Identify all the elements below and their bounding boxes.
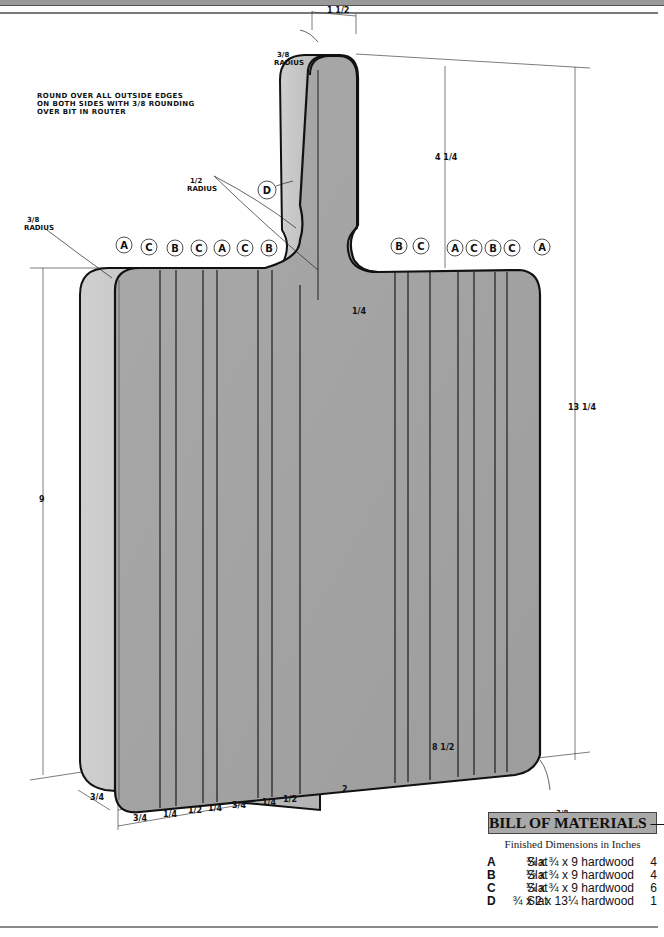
svg-text:C: C [241, 243, 248, 254]
bom-dimensions: ½ x ¾ x 9 hardwood [526, 868, 634, 882]
cutting-board-drawing: ACB CACB BCA CBCA D 3/8RADIUS 1/2RADIUS … [0, 0, 664, 937]
bom-qty: 6 [650, 881, 657, 895]
bom-row: B Slat ½ x ¾ x 9 hardwood 4 [0, 868, 664, 882]
bom-qty: 4 [650, 855, 657, 869]
bom-qty: 1 [650, 894, 657, 908]
svg-text:B: B [395, 241, 403, 252]
bom-part: D [487, 894, 496, 908]
svg-text:A: A [538, 242, 546, 253]
svg-text:C: C [470, 243, 477, 254]
bom-subtitle: Finished Dimensions in Inches [488, 838, 657, 850]
svg-text:1/4: 1/4 [352, 307, 366, 316]
svg-text:4 1/4: 4 1/4 [435, 153, 458, 162]
bom-row: C Slat ¼ x ¾ x 9 hardwood 6 [0, 881, 664, 895]
bom-part: C [487, 881, 496, 895]
svg-text:C: C [508, 243, 515, 254]
bottom-rule [0, 926, 658, 928]
svg-text:1 1/2: 1 1/2 [327, 6, 349, 15]
svg-text:3/4: 3/4 [232, 801, 246, 810]
svg-text:RADIUS: RADIUS [187, 185, 217, 193]
bom-row: D Slat ¾ x 2 x 13¼ hardwood 1 [0, 894, 664, 908]
svg-text:1/4: 1/4 [163, 810, 177, 819]
bom-part: A [487, 855, 496, 869]
svg-text:1/2: 1/2 [188, 806, 202, 815]
svg-text:C: C [417, 241, 424, 252]
bom-row: A Slat ¾ x ¾ x 9 hardwood 4 [0, 855, 664, 869]
svg-text:8 1/2: 8 1/2 [432, 743, 454, 752]
svg-text:3/8: 3/8 [27, 216, 39, 224]
svg-text:B: B [489, 243, 497, 254]
bom-title: BILL OF MATERIALS — Cutting Board [488, 812, 657, 834]
board-face [115, 55, 540, 812]
svg-text:2: 2 [342, 785, 348, 794]
svg-text:3/4: 3/4 [90, 793, 104, 802]
svg-text:B: B [171, 243, 179, 254]
svg-text:1/2: 1/2 [283, 795, 297, 804]
bom-part: B [487, 868, 496, 882]
svg-text:3/8: 3/8 [277, 51, 289, 59]
svg-text:A: A [451, 243, 459, 254]
svg-text:C: C [145, 242, 152, 253]
bom-dimensions: ¼ x ¾ x 9 hardwood [526, 881, 634, 895]
svg-text:D: D [263, 185, 271, 196]
svg-text:1/4: 1/4 [208, 804, 222, 813]
svg-text:B: B [265, 243, 273, 254]
svg-text:3/4: 3/4 [133, 814, 147, 823]
svg-text:1/2: 1/2 [190, 177, 202, 185]
bom-dimensions: ¾ x ¾ x 9 hardwood [526, 855, 634, 869]
svg-text:RADIUS: RADIUS [24, 224, 54, 232]
svg-text:RADIUS: RADIUS [274, 59, 304, 67]
svg-text:1/4: 1/4 [262, 798, 276, 807]
svg-text:C: C [195, 243, 202, 254]
svg-text:13 1/4: 13 1/4 [568, 403, 596, 412]
bom-dimensions: ¾ x 2 x 13¼ hardwood [513, 894, 634, 908]
routing-note: ROUND OVER ALL OUTSIDE EDGES ON BOTH SID… [37, 92, 195, 116]
svg-text:A: A [218, 243, 226, 254]
svg-text:9: 9 [39, 495, 45, 504]
bom-qty: 4 [650, 868, 657, 882]
svg-text:A: A [120, 240, 128, 251]
